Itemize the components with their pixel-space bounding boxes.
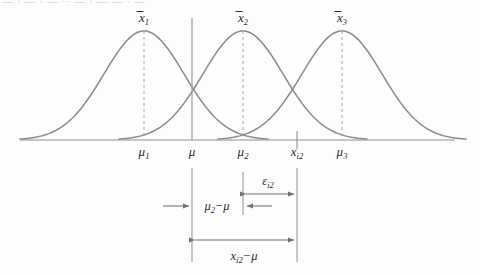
statistical-diagram: x1x2x3 μ1μμ2xi2μ3 εi2 μ2−μ xi2−μ xyxy=(0,0,480,276)
epsilon-measure: εi2 xyxy=(246,174,294,194)
tick-mu-2-label: μ2 xyxy=(237,144,250,161)
peak-dashed-lines xyxy=(144,31,342,140)
tick-mu-3-label: μ3 xyxy=(336,144,348,161)
peak-label-1: x1 xyxy=(138,10,149,27)
axis-tick-labels: μ1μμ2xi2μ3 xyxy=(138,144,348,161)
x-diff-label: xi2−μ xyxy=(230,249,258,265)
mu-difference-measure: μ2−μ xyxy=(163,199,272,215)
peak-label-3: x3 xyxy=(336,10,347,27)
epsilon-label: εi2 xyxy=(262,174,274,190)
tick-mu-label: μ xyxy=(188,144,196,159)
tick-mu-1-label: μ1 xyxy=(138,144,150,161)
mu-diff-label: μ2−μ xyxy=(203,199,229,215)
peak-labels: x1x2x3 xyxy=(137,10,348,27)
diagram-canvas: x1x2x3 μ1μμ2xi2μ3 εi2 μ2−μ xi2−μ xyxy=(0,0,480,276)
peak-label-2: x2 xyxy=(237,10,249,27)
lower-guide-lines xyxy=(192,168,297,262)
x-difference-measure: xi2−μ xyxy=(195,240,294,265)
